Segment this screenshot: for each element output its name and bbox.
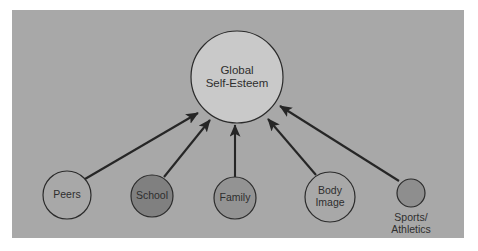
node-label-line: Sports/ — [394, 211, 427, 223]
node-label-peers: Peers — [53, 188, 80, 200]
node-body-image[interactable]: BodyImage — [305, 172, 355, 222]
node-peers[interactable]: Peers — [43, 171, 91, 219]
self-esteem-model-diagram: PeersSchoolFamilyBodyImageSports/Athleti… — [0, 0, 478, 251]
node-school[interactable]: School — [131, 175, 173, 217]
node-label-line: Image — [315, 196, 344, 208]
node-label-body-image: BodyImage — [315, 184, 344, 208]
node-label-family: Family — [220, 191, 252, 203]
node-global-self-esteem[interactable]: GlobalSelf-Esteem — [191, 31, 283, 123]
node-circle-sports-athletics[interactable] — [397, 179, 425, 207]
node-label-line: Global — [220, 64, 253, 76]
figure-root: PeersSchoolFamilyBodyImageSports/Athleti… — [0, 0, 478, 251]
node-label-school: School — [136, 189, 168, 201]
node-label-line: Self-Esteem — [206, 77, 269, 89]
node-family[interactable]: Family — [214, 177, 256, 219]
node-label-line: Athletics — [391, 223, 431, 235]
node-label-line: School — [136, 189, 168, 201]
node-label-line: Peers — [53, 188, 80, 200]
node-label-line: Family — [220, 191, 252, 203]
node-label-sports-athletics: Sports/Athletics — [391, 211, 431, 235]
node-label-line: Body — [318, 184, 343, 196]
